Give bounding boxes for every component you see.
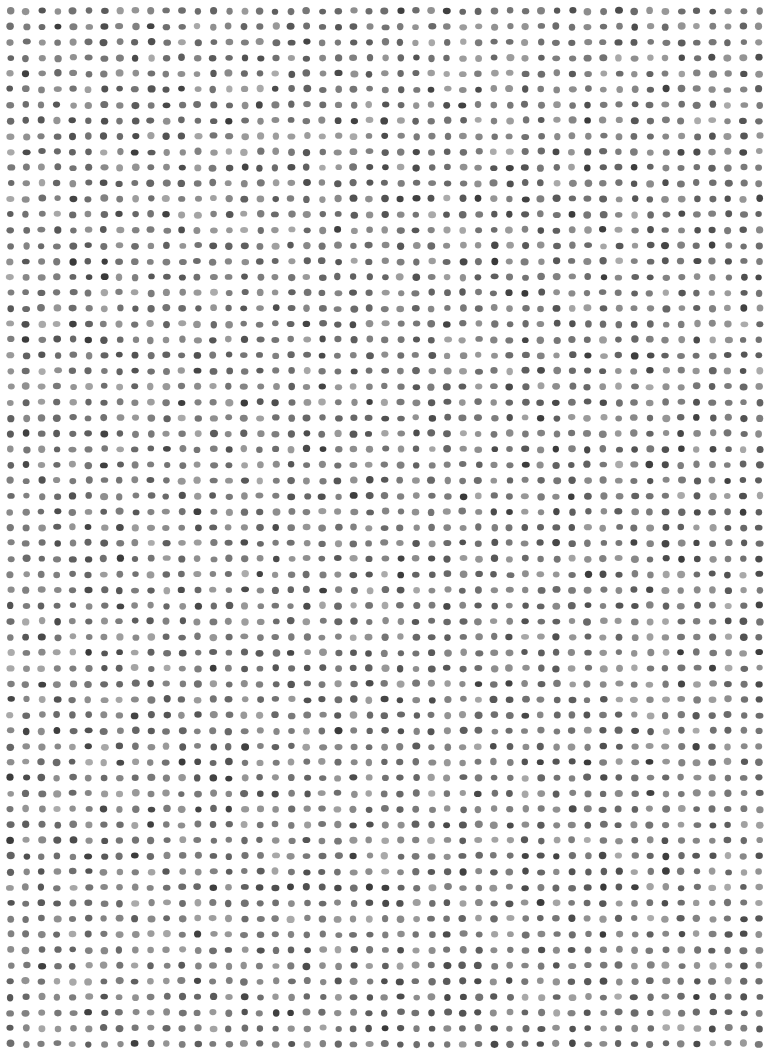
dot xyxy=(304,649,311,655)
dot xyxy=(584,759,592,765)
dot xyxy=(256,415,264,421)
dot xyxy=(8,180,14,186)
dot xyxy=(366,8,373,14)
dot xyxy=(693,258,701,264)
dot xyxy=(443,383,451,390)
dot xyxy=(115,181,122,187)
dot xyxy=(662,634,669,640)
dot xyxy=(210,211,217,217)
dot xyxy=(646,899,653,906)
dot xyxy=(631,335,638,342)
dot xyxy=(179,946,186,952)
dot xyxy=(288,665,295,671)
dot xyxy=(552,885,559,892)
dot xyxy=(646,525,654,532)
dot xyxy=(350,884,358,891)
dot xyxy=(584,1041,592,1047)
dot xyxy=(319,883,326,890)
dot xyxy=(646,508,653,515)
dot xyxy=(615,289,622,295)
dot xyxy=(272,837,280,843)
dot xyxy=(397,1041,404,1047)
dot xyxy=(662,24,669,31)
dot xyxy=(475,633,483,640)
dot xyxy=(647,320,654,327)
dot xyxy=(7,634,14,641)
dot xyxy=(163,55,170,61)
dot xyxy=(148,869,156,875)
dot xyxy=(179,492,186,499)
dot xyxy=(226,165,233,172)
dot xyxy=(256,165,262,172)
dot xyxy=(523,116,530,123)
dot xyxy=(163,368,170,375)
dot xyxy=(553,195,561,202)
dot xyxy=(350,273,356,280)
dot xyxy=(256,712,263,719)
dot xyxy=(350,509,358,516)
dot xyxy=(288,994,295,1001)
dot xyxy=(194,633,201,640)
dot xyxy=(599,759,607,765)
dot xyxy=(646,493,654,499)
dot xyxy=(412,367,420,374)
dot xyxy=(521,23,528,30)
dot xyxy=(615,1025,622,1031)
dot xyxy=(724,102,731,108)
dot xyxy=(521,290,528,297)
dot xyxy=(319,664,326,671)
dot xyxy=(288,978,296,984)
dot xyxy=(69,587,76,593)
dot xyxy=(724,508,731,515)
dot xyxy=(225,258,232,264)
dot xyxy=(710,415,717,422)
dot xyxy=(23,665,30,672)
dot xyxy=(38,915,45,922)
dot xyxy=(428,133,435,140)
dot xyxy=(162,211,170,217)
dot xyxy=(755,978,762,984)
dot xyxy=(7,305,14,312)
dot xyxy=(631,884,639,890)
dot xyxy=(194,71,201,77)
dot xyxy=(491,539,498,546)
dot xyxy=(522,337,529,343)
dot xyxy=(381,416,389,422)
dot xyxy=(662,681,668,688)
dot xyxy=(444,414,451,421)
dot xyxy=(382,932,388,939)
dot xyxy=(599,727,606,734)
dot xyxy=(413,899,421,906)
dot xyxy=(117,430,123,436)
dot xyxy=(69,820,77,828)
dot xyxy=(272,493,279,499)
dot xyxy=(460,649,467,656)
dot xyxy=(756,790,764,796)
dot xyxy=(475,101,481,108)
dot xyxy=(428,853,436,859)
dot xyxy=(287,540,295,546)
dot xyxy=(616,587,623,594)
dot xyxy=(100,23,108,30)
dot xyxy=(381,492,388,499)
dot xyxy=(490,618,497,624)
dot xyxy=(101,289,108,296)
dot xyxy=(569,868,576,875)
dot xyxy=(724,462,731,468)
dot xyxy=(101,775,108,782)
dot xyxy=(599,383,606,390)
dot xyxy=(100,931,107,937)
dot xyxy=(194,148,201,155)
dot xyxy=(288,211,296,218)
dot xyxy=(505,337,513,343)
dot xyxy=(225,524,232,530)
dot xyxy=(506,728,513,734)
dot xyxy=(101,525,108,531)
dot xyxy=(365,650,372,657)
dot xyxy=(491,633,497,640)
dot xyxy=(569,305,576,312)
dot xyxy=(179,727,187,734)
dot xyxy=(677,868,684,875)
dot xyxy=(7,415,14,422)
dot xyxy=(303,39,310,45)
